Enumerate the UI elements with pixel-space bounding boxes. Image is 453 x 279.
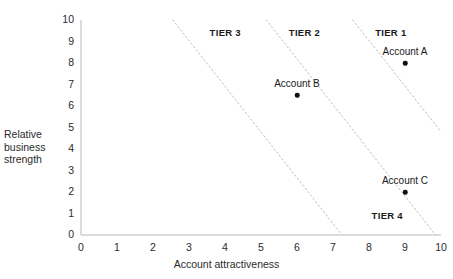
tier-label-tier-1: TIER 1 xyxy=(375,27,406,38)
x-tick-1: 1 xyxy=(107,241,127,253)
scatter-chart: 012345678910 012345678910 Relative busin… xyxy=(0,0,453,279)
point-dot-account-a[interactable] xyxy=(403,61,408,66)
point-dot-account-b[interactable] xyxy=(295,93,300,98)
x-tick-4: 4 xyxy=(215,241,235,253)
x-tick-9: 9 xyxy=(395,241,415,253)
x-tick-5: 5 xyxy=(251,241,271,253)
tier-label-tier-3: TIER 3 xyxy=(210,27,241,38)
point-label-account-b: Account B xyxy=(274,78,320,89)
y-tick-6: 6 xyxy=(54,99,74,111)
tier-label-tier-4: TIER 4 xyxy=(372,210,403,221)
x-tick-6: 6 xyxy=(287,241,307,253)
y-tick-7: 7 xyxy=(54,78,74,90)
y-tick-10: 10 xyxy=(54,13,74,25)
tier-label-tier-2: TIER 2 xyxy=(289,27,320,38)
y-tick-8: 8 xyxy=(54,56,74,68)
point-label-account-a: Account A xyxy=(382,46,427,57)
tier3-tier2-divider xyxy=(173,20,342,235)
y-tick-0: 0 xyxy=(54,228,74,240)
point-label-account-c: Account C xyxy=(382,175,428,186)
x-tick-7: 7 xyxy=(323,241,343,253)
y-tick-9: 9 xyxy=(54,35,74,47)
x-tick-2: 2 xyxy=(143,241,163,253)
y-axis-title: Relative business strength xyxy=(4,128,76,166)
x-tick-3: 3 xyxy=(179,241,199,253)
x-tick-0: 0 xyxy=(71,241,91,253)
x-tick-8: 8 xyxy=(359,241,379,253)
y-tick-2: 2 xyxy=(54,185,74,197)
x-tick-10: 10 xyxy=(431,241,451,253)
point-dot-account-c[interactable] xyxy=(403,190,408,195)
y-tick-1: 1 xyxy=(54,207,74,219)
x-axis-title: Account attractiveness xyxy=(0,258,453,270)
